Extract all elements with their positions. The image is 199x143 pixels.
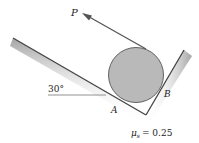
- arrowhead-icon: [82, 13, 92, 21]
- angle-label: 30°: [48, 84, 64, 94]
- force-arrow-line: [84, 14, 146, 49]
- contact-point-a-label: A: [110, 105, 118, 115]
- friction-value: = 0.25: [142, 128, 173, 138]
- cylinder: [109, 48, 164, 103]
- force-label-p: P: [70, 7, 78, 18]
- cylinder-on-v-groove-diagram: P 30° A B μs= 0.25: [0, 0, 199, 143]
- friction-coefficient: μs= 0.25: [131, 128, 173, 139]
- contact-point-b-label: B: [163, 89, 171, 99]
- mu-subscript: s: [137, 132, 140, 139]
